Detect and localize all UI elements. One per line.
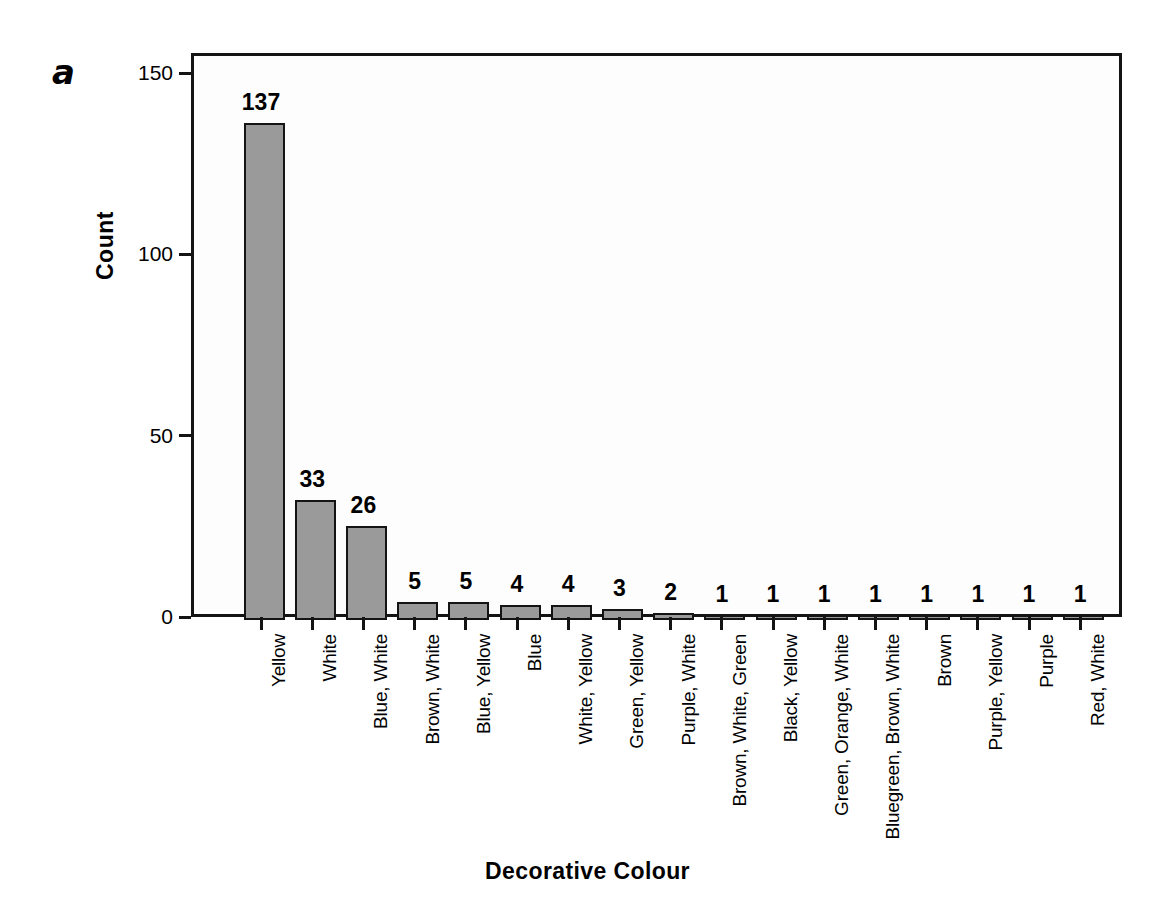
x-axis-tick-label: Purple, White [678,634,700,745]
bar-value-label: 1 [818,581,831,608]
x-axis-tick-mark [1028,617,1031,630]
y-axis-tick-mark [179,253,191,256]
x-axis-tick-mark [823,617,826,630]
bar-value-label: 1 [767,581,780,608]
bar [397,602,438,620]
bar-value-label: 4 [562,571,575,598]
x-axis-tick-label: Yellow [268,634,290,687]
x-axis-tick-mark [1079,617,1082,630]
bar [858,615,899,620]
x-axis-tick-label: Blue, White [370,634,392,729]
x-axis-tick-mark [720,617,723,630]
x-axis-tick-mark [772,617,775,630]
bar [704,615,745,620]
y-axis: Count [0,0,191,620]
x-axis-tick-mark [669,617,672,630]
y-axis-tick-mark [179,72,191,75]
x-axis-tick-label: Brown, White, Green [729,634,751,807]
x-axis-tick-mark [976,617,979,630]
bar-value-label: 137 [242,89,280,116]
bar [500,605,541,620]
bar-value-label: 1 [920,581,933,608]
bar [551,605,592,620]
bar [346,526,387,620]
bar [448,602,489,620]
x-axis-tick-label: Brown, White [422,634,444,745]
bar-value-label: 1 [1074,581,1087,608]
bar [244,123,285,620]
bar [602,609,643,620]
x-axis-tick-label: Blue, Yellow [473,634,495,734]
x-axis-tick-label: White [319,634,341,682]
bar-value-label: 3 [613,575,626,602]
figure-panel-a: a Count Decorative Colour 050100150137Ye… [0,0,1175,906]
x-axis-tick-label: Bluegreen, Brown, White [882,634,904,840]
x-axis-tick-label: Blue [524,634,546,671]
x-axis-tick-label: Green, Yellow [626,634,648,749]
bar [1012,615,1053,620]
x-axis-tick-mark [516,617,519,630]
bar-value-label: 5 [459,568,472,595]
bar [653,613,694,620]
x-axis-title: Decorative Colour [0,858,1175,885]
x-axis-tick-label: Purple [1036,634,1058,688]
x-axis-tick-label: Green, Orange, White [831,634,853,816]
y-axis-tick-label: 150 [0,61,173,85]
x-axis-tick-mark [413,617,416,630]
x-axis-tick-mark [311,617,314,630]
y-axis-tick-label: 100 [0,242,173,266]
x-axis-tick-label: Purple, Yellow [985,634,1007,751]
bar-value-label: 2 [664,579,677,606]
x-axis-tick-label: Black, Yellow [780,634,802,742]
plot-frame [191,53,1122,617]
bar-value-label: 1 [715,581,728,608]
y-axis-tick-label: 50 [0,424,173,448]
bar-value-label: 1 [869,581,882,608]
x-axis-tick-mark [260,617,263,630]
y-axis-tick-label: 0 [0,605,173,629]
bar-value-label: 26 [351,492,377,519]
bar-value-label: 4 [511,571,524,598]
bar [909,615,950,620]
bar [295,500,336,620]
x-axis-tick-label: Red, White [1087,634,1109,726]
x-axis-tick-mark [362,617,365,630]
bar-value-label: 5 [408,568,421,595]
x-axis-tick-mark [874,617,877,630]
bar [1063,615,1104,620]
x-axis-tick-label: White, Yellow [575,634,597,744]
bar [807,615,848,620]
bar-value-label: 1 [971,581,984,608]
y-axis-tick-mark [179,434,191,437]
y-axis-tick-mark [179,616,191,619]
bar-value-label: 1 [1023,581,1036,608]
x-axis-tick-mark [925,617,928,630]
x-axis-tick-label: Brown [934,634,956,687]
x-axis-tick-mark [618,617,621,630]
bar [960,615,1001,620]
x-axis-tick-mark [567,617,570,630]
bar [756,615,797,620]
x-axis-tick-mark [464,617,467,630]
plot-area [194,56,1119,614]
bar-value-label: 33 [299,466,325,493]
